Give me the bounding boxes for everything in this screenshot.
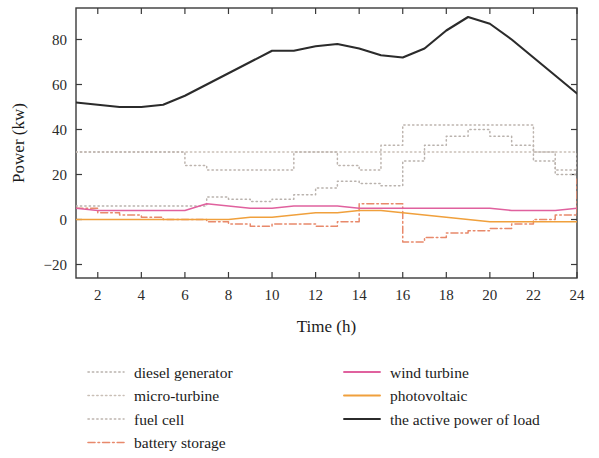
legend-item-battery-storage[interactable]: battery storage (88, 434, 226, 451)
y-tick-label: 80 (52, 32, 67, 48)
legend-item-photovoltaic[interactable]: photovoltaic (344, 387, 468, 404)
legend-label: micro-turbine (134, 387, 219, 404)
x-tick-label: 24 (570, 287, 586, 303)
x-tick-label: 14 (352, 287, 368, 303)
power-time-chart: 24681012141618202224−20020406080Time (h)… (0, 0, 599, 458)
x-tick-label: 10 (265, 287, 280, 303)
legend-label: diesel generator (134, 364, 233, 381)
y-tick-label: 0 (60, 212, 68, 228)
legend-item-micro-turbine[interactable]: micro-turbine (88, 387, 219, 404)
x-tick-label: 20 (482, 287, 497, 303)
y-tick-label: 40 (52, 122, 67, 138)
legend-label: fuel cell (134, 411, 184, 428)
figure-container: 24681012141618202224−20020406080Time (h)… (0, 0, 599, 458)
y-tick-label: 20 (52, 167, 67, 183)
x-tick-label: 16 (395, 287, 411, 303)
legend-item-wind-turbine[interactable]: wind turbine (344, 364, 469, 381)
x-tick-label: 12 (308, 287, 323, 303)
y-axis-title: Power (kw) (9, 103, 28, 183)
legend-item-the-active-power-of-load[interactable]: the active power of load (344, 411, 540, 428)
legend-item-diesel-generator[interactable]: diesel generator (88, 364, 233, 381)
legend-label: the active power of load (390, 411, 540, 428)
x-tick-label: 6 (181, 287, 189, 303)
x-tick-label: 2 (94, 287, 102, 303)
legend-label: battery storage (134, 434, 226, 451)
x-tick-label: 22 (526, 287, 541, 303)
plot-frame (76, 8, 577, 278)
legend-label: wind turbine (390, 364, 469, 381)
x-tick-label: 4 (138, 287, 146, 303)
legend: diesel generatormicro-turbinefuel cellba… (88, 364, 540, 452)
x-axis-title: Time (h) (297, 317, 356, 336)
legend-item-fuel-cell[interactable]: fuel cell (88, 411, 184, 428)
legend-label: photovoltaic (390, 387, 468, 404)
y-tick-label: −20 (44, 257, 67, 273)
x-tick-label: 8 (225, 287, 233, 303)
y-tick-label: 60 (52, 77, 67, 93)
x-tick-label: 18 (439, 287, 454, 303)
